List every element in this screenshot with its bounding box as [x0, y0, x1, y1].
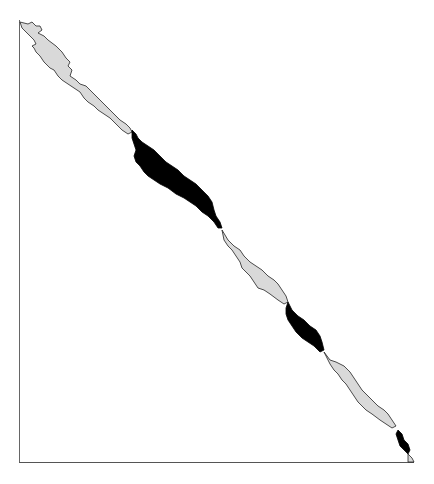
- dark-region-1: [132, 130, 222, 228]
- dark-region-2: [286, 302, 324, 352]
- light-region-tip: [408, 454, 414, 462]
- light-region-3: [324, 352, 396, 428]
- light-region-1: [20, 22, 132, 134]
- diagonal-band-diagram: [0, 0, 434, 484]
- dark-region-3: [396, 430, 410, 454]
- light-region-2: [222, 230, 288, 304]
